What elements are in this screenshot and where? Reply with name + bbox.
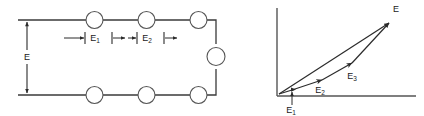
- vector-label-e-resultant: E: [393, 4, 399, 14]
- circuit-element-top-1: [86, 12, 103, 29]
- figure-container: E E1 E2: [0, 0, 424, 116]
- circuit-element-top-2: [138, 12, 155, 29]
- vector-label-e3: E3: [347, 71, 357, 82]
- figure-svg: E E1 E2: [0, 0, 424, 116]
- right-side-to-bottom-rail: [207, 69, 216, 95]
- top-rail-to-right-side: [207, 20, 216, 44]
- voltage-drop-label-e2: E2: [142, 33, 152, 44]
- circuit-element-right: [207, 48, 225, 66]
- vector-label-e2: E2: [315, 85, 325, 96]
- series-circuit-ladder: E E1 E2: [18, 12, 225, 104]
- voltage-drop-label-e1: E1: [90, 33, 100, 44]
- vector-e-resultant: [279, 23, 389, 94]
- circuit-element-bottom-3: [190, 87, 207, 104]
- circuit-element-top-3: [190, 12, 207, 29]
- circuit-element-bottom-1: [86, 87, 103, 104]
- total-voltage-label: E: [24, 52, 30, 62]
- vector-label-e1: E1: [286, 105, 296, 116]
- vector-e1-arrowhead: [291, 88, 296, 92]
- vector-e1-component: [279, 90, 292, 94]
- circuit-element-bottom-2: [138, 87, 155, 104]
- phasor-vector-sum: E1 E2 E3 E: [277, 4, 416, 116]
